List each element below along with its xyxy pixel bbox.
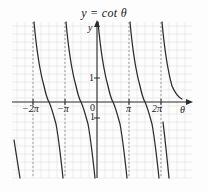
figure-cot-graph: y = cot θ: [0, 0, 208, 192]
y-tick-label-neg-1: 1: [90, 112, 95, 122]
x-tick-label-neg-pi: −π: [57, 104, 69, 114]
x-tick-label-pi: π: [126, 104, 131, 114]
x-tick-label-neg-2pi: −2π: [22, 104, 39, 114]
y-tick-label-1: 1: [89, 73, 94, 83]
plot-svg: [0, 0, 208, 192]
chart-title: y = cot θ: [0, 6, 208, 21]
x-tick-label-2pi: 2π: [152, 104, 162, 114]
y-axis-label: y: [88, 23, 92, 33]
x-axis-label: θ: [180, 105, 185, 115]
